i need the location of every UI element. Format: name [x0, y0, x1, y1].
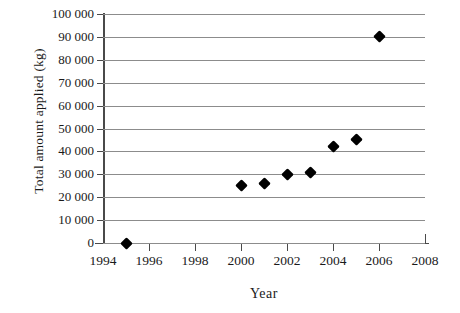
x-axis-tick: [379, 244, 380, 251]
gridline-horizontal: [103, 243, 425, 244]
x-axis-title: Year: [103, 286, 425, 302]
x-axis-tick: [103, 234, 104, 243]
gridline-horizontal: [103, 83, 425, 84]
y-axis-tick-label: 0: [24, 235, 94, 251]
gridline-horizontal: [103, 60, 425, 61]
gridline-horizontal: [103, 220, 425, 221]
gridline-horizontal: [103, 106, 425, 107]
x-axis-tick-label: 2008: [395, 253, 455, 269]
x-axis-tick: [287, 244, 288, 251]
y-axis-tick-label: 60 000: [24, 98, 94, 114]
gridline-horizontal: [103, 129, 425, 130]
y-axis-tick-label: 10 000: [24, 212, 94, 228]
data-point: [373, 31, 386, 44]
y-axis-tick: [97, 106, 103, 107]
x-axis-tick: [333, 244, 334, 251]
y-axis-tick: [97, 243, 103, 244]
gridline-horizontal: [103, 197, 425, 198]
gridline-horizontal: [103, 14, 425, 15]
y-axis-tick-label: 100 000: [24, 6, 94, 22]
data-point: [258, 177, 271, 190]
y-axis-tick-label: 90 000: [24, 29, 94, 45]
y-axis-tick: [97, 220, 103, 221]
x-axis-tick: [149, 244, 150, 251]
gridline-horizontal: [103, 174, 425, 175]
y-axis-tick-label: 40 000: [24, 143, 94, 159]
y-axis-tick-label: 50 000: [24, 121, 94, 137]
y-axis-tick-label: 70 000: [24, 75, 94, 91]
x-axis-tick: [241, 244, 242, 251]
y-axis-tick: [97, 60, 103, 61]
plot-area: [103, 14, 425, 243]
scatter-chart-figure: Total amount applied (kg) Year 010 00020…: [0, 0, 460, 313]
y-axis-tick-label: 30 000: [24, 166, 94, 182]
y-axis-tick-label: 80 000: [24, 52, 94, 68]
y-axis-tick: [97, 174, 103, 175]
x-axis-tick: [425, 234, 426, 243]
y-axis-tick: [97, 37, 103, 38]
data-point: [120, 237, 133, 250]
y-axis-tick: [97, 14, 103, 15]
y-axis-tick-label: 20 000: [24, 189, 94, 205]
gridline-horizontal: [103, 151, 425, 152]
data-point: [235, 179, 248, 192]
y-axis-tick: [97, 129, 103, 130]
data-point: [350, 134, 363, 147]
y-axis-tick: [97, 83, 103, 84]
y-axis-tick: [97, 151, 103, 152]
data-point: [281, 168, 294, 181]
data-point: [304, 166, 317, 179]
x-axis-tick: [195, 244, 196, 251]
y-axis-tick: [97, 197, 103, 198]
